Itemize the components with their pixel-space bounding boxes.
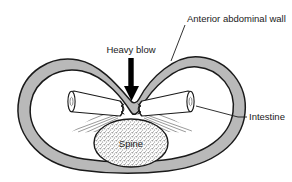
anatomical-diagram: Anterior abdominal wall Heavy blow Intes…: [0, 0, 292, 182]
label-intestine: Intestine: [249, 111, 285, 122]
label-heavy-blow: Heavy blow: [106, 44, 155, 55]
label-spine: Spine: [119, 138, 143, 149]
diagram-canvas: Anterior abdominal wall Heavy blow Intes…: [0, 0, 292, 182]
label-anterior-abdominal-wall: Anterior abdominal wall: [187, 13, 286, 24]
